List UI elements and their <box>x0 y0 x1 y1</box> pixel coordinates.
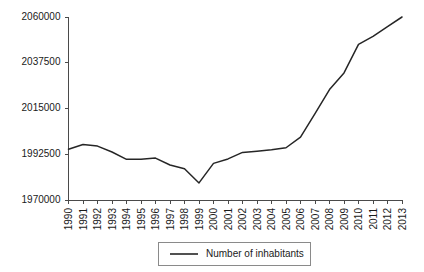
y-tick-label: 2037500 <box>22 56 61 67</box>
series-group <box>69 17 403 183</box>
x-tick-label: 2008 <box>324 208 335 231</box>
x-tick-label: 2012 <box>382 208 393 231</box>
x-tick-label: 2009 <box>339 208 350 231</box>
y-tick-label: 2015000 <box>22 102 61 113</box>
y-tick-group: 19700001992500201500020375002060000 <box>22 11 69 205</box>
x-tick-label: 2007 <box>310 208 321 231</box>
y-tick-label: 1970000 <box>22 194 61 205</box>
x-axis: 1990199119921993199419951996199719981999… <box>63 200 408 230</box>
chart-canvas: 19700001992500201500020375002060000 1990… <box>0 0 424 272</box>
x-tick-label: 1994 <box>121 208 132 231</box>
x-tick-label: 2013 <box>397 208 408 231</box>
x-tick-label: 1993 <box>107 208 118 231</box>
x-tick-label: 2003 <box>252 208 263 231</box>
x-tick-group: 1990199119921993199419951996199719981999… <box>63 200 408 230</box>
series-line-number-of-inhabitants <box>69 17 403 183</box>
x-tick-label: 1990 <box>63 208 74 231</box>
x-tick-label: 1991 <box>78 208 89 231</box>
x-tick-label: 2006 <box>295 208 306 231</box>
x-tick-label: 1992 <box>92 208 103 231</box>
x-tick-label: 2011 <box>368 208 379 230</box>
x-tick-label: 1998 <box>179 208 190 231</box>
y-tick-label: 1992500 <box>22 148 61 159</box>
y-tick-label: 2060000 <box>22 11 61 22</box>
x-tick-label: 2005 <box>281 208 292 231</box>
x-tick-label: 1999 <box>194 208 205 231</box>
population-line-chart: 19700001992500201500020375002060000 1990… <box>0 0 424 272</box>
legend-label-number-of-inhabitants: Number of inhabitants <box>206 248 304 259</box>
legend: Number of inhabitants <box>159 243 311 266</box>
x-tick-label: 2010 <box>353 208 364 231</box>
x-tick-label: 2000 <box>208 208 219 231</box>
x-tick-label: 2002 <box>237 208 248 231</box>
x-tick-label: 2001 <box>223 208 234 231</box>
y-axis: 19700001992500201500020375002060000 <box>22 11 69 205</box>
x-tick-label: 1996 <box>150 208 161 231</box>
x-tick-label: 2004 <box>266 208 277 231</box>
x-tick-label: 1995 <box>136 208 147 231</box>
x-tick-label: 1997 <box>165 208 176 231</box>
